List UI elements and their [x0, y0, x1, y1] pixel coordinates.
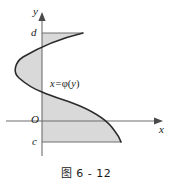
x-axis-label: x: [159, 124, 164, 135]
figure-caption: 图 6 - 12: [0, 164, 172, 180]
figure-graph: [0, 0, 172, 166]
curve-equation-paren: ): [76, 78, 80, 89]
y-axis-label: y: [33, 6, 38, 17]
lower-bound-label-c: c: [32, 136, 37, 147]
upper-bound-label-d: d: [31, 27, 37, 38]
y-axis-arrow-icon: [38, 12, 45, 21]
curve-equation-phi: φ(: [62, 78, 72, 89]
curve-equation-x: x=: [50, 78, 62, 89]
curve-equation-label: x=φ(y): [50, 79, 79, 90]
figure-container: y x d c O x=φ(y) 图 6 - 12: [0, 0, 172, 184]
origin-label: O: [31, 114, 39, 125]
